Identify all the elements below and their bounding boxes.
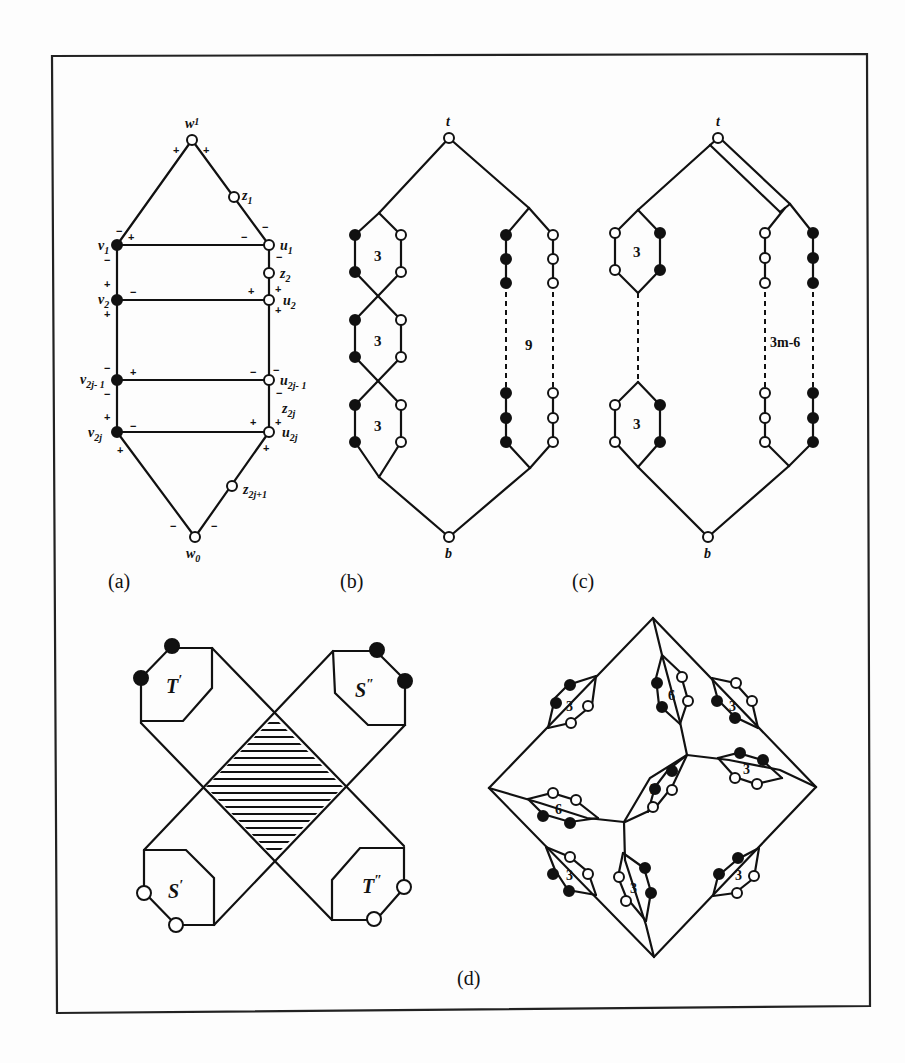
svg-text:z2: z2: [279, 266, 290, 284]
label-S-double-prime: S″: [355, 677, 374, 701]
svg-text:+: +: [173, 144, 179, 156]
svg-text:3: 3: [630, 881, 637, 896]
hatched-overlap: [190, 723, 360, 849]
panel-c: t b 3 3 3m-6 (c): [572, 114, 818, 593]
svg-text:w0: w0: [186, 546, 200, 564]
panel-a-caption: (a): [108, 570, 130, 593]
svg-text:+: +: [275, 304, 281, 316]
label-T-double-prime: T″: [362, 873, 382, 897]
panel-b-cell-3: 3: [374, 418, 382, 434]
figure-canvas: w1 z1 v1 u1 z2 v2 u2 v2j- 1 u2j- 1 z2j v…: [0, 0, 905, 1063]
svg-text:3: 3: [650, 782, 657, 797]
panel-b-cell-1: 3: [374, 248, 382, 264]
svg-text:u2: u2: [283, 293, 296, 311]
panel-b-chain-count: 9: [525, 337, 533, 353]
panel-c-top-label: t: [716, 114, 721, 129]
svg-text:u2j: u2j: [282, 425, 298, 443]
svg-text:z2j: z2j: [281, 401, 295, 419]
vertex-w0: [190, 532, 200, 542]
svg-text:+: +: [104, 411, 110, 423]
vertex-v2j: [112, 427, 122, 437]
svg-text:v2j- 1: v2j- 1: [80, 372, 105, 390]
panel-b-caption: (b): [340, 570, 363, 593]
panel-d-right: 3 6 3 3 3 6 3 3 3: [489, 618, 816, 957]
panel-b-cell-2: 3: [374, 333, 382, 349]
panel-c-bottom-label: b: [704, 546, 711, 561]
svg-text:−: −: [104, 362, 110, 374]
svg-text:−: −: [170, 520, 176, 532]
vertex-v1: [112, 240, 122, 250]
svg-text:+: +: [275, 416, 281, 428]
svg-text:+: +: [263, 442, 269, 454]
svg-text:+: +: [250, 416, 256, 428]
svg-text:−: −: [211, 520, 217, 532]
svg-text:+: +: [104, 308, 110, 320]
svg-text:−: −: [116, 225, 122, 237]
panel-d-right-cell-counts: 3 6 3 3 3 6 3 3 3: [555, 688, 750, 896]
vertex-z1: [229, 192, 239, 202]
label-S-prime: S′: [168, 878, 183, 902]
svg-text:3: 3: [743, 762, 750, 777]
panel-b-bottom-label: b: [445, 546, 452, 561]
svg-text:−: −: [276, 251, 282, 263]
svg-text:−: −: [104, 254, 110, 266]
svg-text:−: −: [262, 221, 268, 233]
panel-a-signs: + + − + − − − + + − − + + + − + − − − + …: [104, 144, 282, 532]
svg-text:u2j- 1: u2j- 1: [280, 373, 306, 391]
label-T-prime: T′: [166, 673, 182, 697]
panel-a: w1 z1 v1 u1 z2 v2 u2 v2j- 1 u2j- 1 z2j v…: [80, 116, 306, 593]
vertex-u2: [264, 295, 274, 305]
svg-text:−: −: [250, 366, 256, 378]
vertex-w1: [187, 135, 197, 145]
panel-c-cell-2: 3: [633, 416, 641, 432]
panel-c-caption: (c): [572, 570, 594, 593]
svg-text:+: +: [248, 285, 254, 297]
svg-text:+: +: [128, 231, 134, 243]
svg-text:3: 3: [566, 868, 573, 883]
svg-text:z2j+1: z2j+1: [242, 482, 267, 500]
svg-text:+: +: [117, 444, 123, 456]
svg-text:−: −: [273, 364, 279, 376]
svg-text:+: +: [275, 283, 281, 295]
svg-text:−: −: [241, 231, 247, 243]
panel-b: t b 3 3 3 9 (b): [340, 114, 558, 593]
svg-text:v2j: v2j: [88, 425, 102, 443]
svg-text:6: 6: [668, 688, 675, 703]
panel-d-caption: (d): [457, 967, 480, 990]
svg-text:3: 3: [729, 699, 736, 714]
panel-b-edges: [355, 138, 553, 537]
svg-text:3: 3: [566, 699, 573, 714]
vertex-u1: [264, 240, 274, 250]
svg-text:+: +: [104, 278, 110, 290]
vertex-z2j+1: [227, 481, 237, 491]
svg-text:−: −: [276, 387, 282, 399]
panel-b-top-label: t: [446, 114, 451, 129]
vertex-u2j: [264, 427, 274, 437]
vertex-z2: [264, 268, 274, 278]
svg-text:+: +: [203, 144, 209, 156]
figure-frame: [52, 54, 870, 1013]
panel-a-labels: w1 z1 v1 u1 z2 v2 u2 v2j- 1 u2j- 1 z2j v…: [80, 116, 306, 564]
panel-c-chain-count: 3m-6: [770, 335, 800, 350]
svg-text:−: −: [130, 420, 136, 432]
vertex-v2j-1: [112, 375, 122, 385]
panel-c-cell-1: 3: [633, 244, 641, 260]
panel-d-left: T′ S″ S′ T″: [134, 639, 412, 932]
svg-text:z1: z1: [241, 188, 252, 206]
vertex-u2j-1: [264, 375, 274, 385]
svg-text:3: 3: [735, 868, 742, 883]
svg-text:+: +: [130, 366, 136, 378]
svg-text:6: 6: [555, 802, 562, 817]
svg-text:−: −: [104, 388, 110, 400]
vertex-v2: [112, 295, 122, 305]
svg-text:−: −: [130, 286, 136, 298]
svg-text:w1: w1: [185, 116, 199, 131]
